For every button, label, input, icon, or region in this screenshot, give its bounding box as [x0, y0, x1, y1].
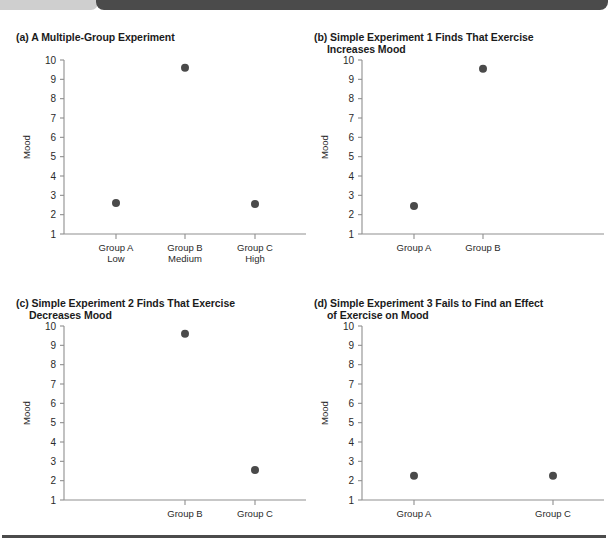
data-point-marker	[181, 64, 189, 72]
y-axis-label: Mood	[21, 135, 32, 159]
x-tick-label: Group C	[237, 242, 273, 253]
y-tick-label: 3	[50, 190, 56, 201]
y-tick-label: 5	[348, 417, 354, 428]
x-tick-label: Group C	[535, 508, 571, 519]
panel-c-title-line1: (c) Simple Experiment 2 Finds That Exerc…	[16, 297, 235, 309]
y-tick-label: 5	[348, 151, 354, 162]
y-tick-label: 8	[50, 359, 56, 370]
x-tick-label: Group A	[397, 242, 433, 253]
y-tick-label: 3	[348, 190, 354, 201]
y-tick-label: 2	[50, 475, 56, 486]
y-tick-label: 4	[348, 437, 354, 448]
x-tick-sublabel: High	[245, 253, 265, 264]
y-tick-label: 10	[45, 55, 57, 66]
chart-panel-a: (a) A Multiple-Group Experiment 12345678…	[14, 18, 310, 264]
x-tick-label: Group B	[167, 242, 202, 253]
panel-d-title-line1: (d) Simple Experiment 3 Fails to Find an…	[314, 297, 543, 309]
y-axis-label: Mood	[21, 401, 32, 425]
y-tick-label: 6	[348, 398, 354, 409]
data-point-marker	[112, 199, 120, 207]
data-point-marker	[410, 472, 418, 480]
y-tick-label: 6	[50, 398, 56, 409]
data-point-marker	[181, 330, 189, 338]
data-point-marker	[549, 472, 557, 480]
y-tick-label: 10	[45, 321, 57, 332]
y-tick-label: 9	[348, 74, 354, 85]
y-tick-label: 1	[50, 495, 56, 506]
y-tick-label: 5	[50, 151, 56, 162]
y-tick-label: 5	[50, 417, 56, 428]
y-tick-label: 2	[50, 209, 56, 220]
panel-c-plot: 12345678910MoodGroup BGroup C	[14, 314, 310, 530]
x-tick-label: Group C	[237, 508, 273, 519]
panel-d-title: (d) Simple Experiment 3 Fails to Find an…	[314, 284, 608, 310]
panel-a-plot: 12345678910MoodGroup ALowGroup BMediumGr…	[14, 48, 310, 264]
x-tick-label: Group A	[397, 508, 433, 519]
panel-a-title-line1: (a) A Multiple-Group Experiment	[16, 31, 175, 43]
x-tick-sublabel: Medium	[168, 253, 202, 264]
y-tick-label: 1	[348, 229, 354, 240]
y-tick-label: 2	[348, 209, 354, 220]
y-tick-label: 9	[50, 340, 56, 351]
y-tick-label: 7	[50, 113, 56, 124]
x-tick-label: Group B	[167, 508, 202, 519]
y-tick-label: 2	[348, 475, 354, 486]
x-tick-sublabel: Low	[107, 253, 125, 264]
y-tick-label: 7	[50, 379, 56, 390]
y-tick-label: 8	[348, 359, 354, 370]
y-tick-label: 4	[50, 437, 56, 448]
panel-c-title: (c) Simple Experiment 2 Finds That Exerc…	[16, 284, 310, 310]
y-tick-label: 1	[348, 495, 354, 506]
chart-panel-c: (c) Simple Experiment 2 Finds That Exerc…	[14, 284, 310, 530]
panel-b-title-line1: (b) Simple Experiment 1 Finds That Exerc…	[314, 31, 534, 43]
y-axis-label: Mood	[319, 401, 330, 425]
data-point-marker	[251, 200, 259, 208]
y-tick-label: 7	[348, 379, 354, 390]
y-tick-label: 9	[50, 74, 56, 85]
y-tick-label: 3	[50, 456, 56, 467]
page-header-bar	[0, 0, 611, 14]
header-bar-dark-segment	[96, 0, 608, 10]
data-point-marker	[251, 466, 259, 474]
data-point-marker	[479, 65, 487, 73]
y-tick-label: 3	[348, 456, 354, 467]
y-tick-label: 10	[343, 55, 355, 66]
chart-panel-d: (d) Simple Experiment 3 Fails to Find an…	[312, 284, 608, 530]
y-tick-label: 6	[50, 132, 56, 143]
header-bar-light-segment	[0, 0, 98, 10]
y-tick-label: 8	[348, 93, 354, 104]
data-point-marker	[410, 202, 418, 210]
chart-panel-b: (b) Simple Experiment 1 Finds That Exerc…	[312, 18, 608, 264]
x-tick-label: Group A	[99, 242, 135, 253]
panel-b-title: (b) Simple Experiment 1 Finds That Exerc…	[314, 18, 608, 44]
y-tick-label: 10	[343, 321, 355, 332]
y-axis-label: Mood	[319, 135, 330, 159]
x-tick-label: Group B	[465, 242, 500, 253]
y-tick-label: 9	[348, 340, 354, 351]
panel-a-title: (a) A Multiple-Group Experiment	[16, 18, 310, 44]
panel-b-plot: 12345678910MoodGroup AGroup B	[312, 48, 608, 264]
panel-d-plot: 12345678910MoodGroup AGroup C	[312, 314, 608, 530]
y-tick-label: 7	[348, 113, 354, 124]
y-tick-label: 4	[348, 171, 354, 182]
footer-rule	[2, 535, 606, 538]
y-tick-label: 1	[50, 229, 56, 240]
y-tick-label: 4	[50, 171, 56, 182]
y-tick-label: 8	[50, 93, 56, 104]
y-tick-label: 6	[348, 132, 354, 143]
